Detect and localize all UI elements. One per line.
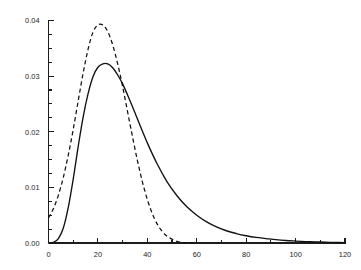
y-tick-label-1: 0.01 (25, 183, 39, 192)
x-tick-label-0: 0 (46, 250, 50, 259)
x-tick-label-3: 60 (193, 250, 201, 259)
x-tick-label-1: 20 (94, 250, 102, 259)
y-tick-label-4: 0.04 (25, 16, 39, 25)
y-tick-label-2: 0.02 (25, 128, 39, 137)
chart-figure: 0.000.010.020.030.04020406080100120 (0, 0, 361, 270)
x-tick-label-4: 80 (242, 250, 250, 259)
x-tick-label-2: 40 (143, 250, 151, 259)
x-tick-label-5: 100 (289, 250, 301, 259)
plot-background (0, 0, 361, 270)
y-tick-label-0: 0.00 (25, 239, 39, 248)
y-tick-label-3: 0.03 (25, 72, 39, 81)
distribution-line-chart: 0.000.010.020.030.04020406080100120 (0, 0, 361, 270)
x-tick-label-6: 120 (339, 250, 351, 259)
